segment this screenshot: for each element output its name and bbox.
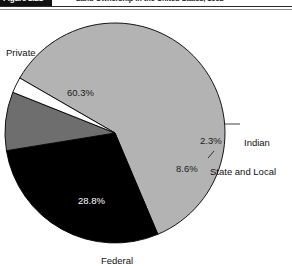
figure-title: Land Ownership in the United States, 199…: [76, 0, 224, 5]
pie-label-indian: Indian: [244, 137, 270, 148]
figure-number-label: Figure 2.21: [3, 0, 43, 5]
figure-header: Figure 2.21 Land Ownership in the United…: [0, 0, 292, 11]
header-rule-thin: [0, 9, 292, 10]
pie-chart: 60.3% 28.8% 8.6% 2.3% Private Federal In…: [0, 11, 292, 262]
pie-value-state-and-local: 8.6%: [176, 163, 198, 174]
pie-slices: [5, 23, 225, 243]
pie-label-federal: Federal: [101, 255, 133, 266]
pie-value-private: 60.3%: [67, 87, 94, 98]
pie-label-state-and-local: State and Local: [210, 166, 276, 177]
header-rule-thick: [0, 6, 292, 7]
pie-value-indian: 2.3%: [200, 135, 222, 146]
pie-label-private: Private: [6, 47, 36, 58]
pie-value-federal: 28.8%: [78, 195, 105, 206]
